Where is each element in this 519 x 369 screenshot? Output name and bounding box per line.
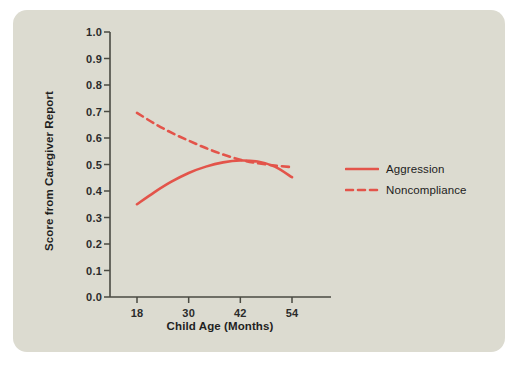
legend-label: Noncompliance: [386, 184, 467, 196]
legend-label: Aggression: [386, 163, 445, 175]
y-tick-label: 0.2: [60, 238, 102, 250]
legend-swatch-dashed-line-icon: [345, 185, 379, 195]
y-tick-label: 0.7: [60, 106, 102, 118]
y-tick-label: 0.5: [60, 159, 102, 171]
y-tick-label: 1.0: [60, 26, 102, 38]
x-tick-label: 30: [182, 307, 195, 319]
y-tick-label: 0.9: [60, 53, 102, 65]
legend-swatch-solid-line-icon: [345, 164, 379, 174]
x-axis-title: Child Age (Months): [110, 320, 330, 332]
legend-item-noncompliance[interactable]: Noncompliance: [345, 184, 467, 196]
y-axis-title: Score from Caregiver Report: [43, 76, 55, 266]
x-tick-label: 54: [286, 307, 299, 319]
y-tick-label: 0.3: [60, 212, 102, 224]
y-tick-label: 0.8: [60, 79, 102, 91]
y-tick-label: 0.1: [60, 265, 102, 277]
y-tick-label: 0.0: [60, 291, 102, 303]
x-tick-label: 18: [131, 307, 144, 319]
y-tick-label: 0.4: [60, 185, 102, 197]
x-tick-label: 42: [234, 307, 247, 319]
y-tick-label: 0.6: [60, 132, 102, 144]
figure-root: 0.00.10.20.30.40.50.60.70.80.91.0 183042…: [0, 0, 519, 369]
chart-legend: AggressionNoncompliance: [345, 163, 467, 196]
legend-item-aggression[interactable]: Aggression: [345, 163, 467, 175]
